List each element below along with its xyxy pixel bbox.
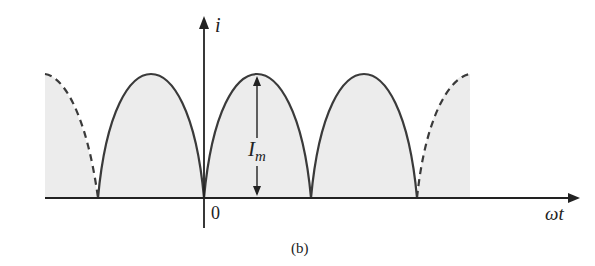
- y-axis-label: i: [215, 14, 221, 37]
- amplitude-label-subscript: m: [255, 148, 266, 164]
- y-axis-arrow-icon: [199, 16, 209, 29]
- x-axis-arrow-icon: [568, 193, 580, 203]
- amplitude-label: Im: [248, 137, 266, 165]
- figure-caption: (b): [291, 240, 309, 257]
- rectified-waveform-diagram: [0, 0, 595, 266]
- amplitude-label-main: I: [248, 137, 255, 161]
- origin-label: 0: [211, 203, 220, 224]
- x-axis-label: ωt: [545, 203, 564, 225]
